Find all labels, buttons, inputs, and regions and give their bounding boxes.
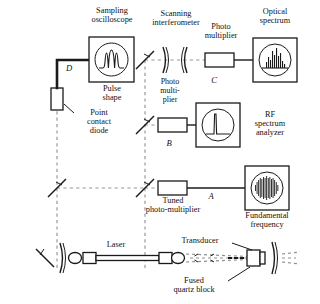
- fused-quartz-block-label: Fused quartz block: [158, 276, 230, 294]
- focused-beam: [228, 257, 244, 259]
- branch-label-d: D: [63, 64, 75, 73]
- branch-label-c: C: [208, 76, 220, 85]
- diagram-canvas: .solid{stroke:#1a1a1a;fill:none;} .thin{…: [0, 0, 320, 304]
- leader-line: [228, 267, 250, 281]
- rf-spectrum-analyzer-label: RF spectrum analyzer: [243, 110, 297, 138]
- photo-multiplier-b-label: Photo multi- plier: [148, 78, 192, 104]
- laser-label: Laser: [96, 240, 136, 249]
- curved-mirror-icon: [60, 243, 66, 273]
- output-beam: [282, 252, 300, 264]
- optical-spectrum-label: Optical spectrum: [249, 7, 301, 25]
- transducer-icon: [247, 250, 265, 266]
- photo-multiplier-c: [205, 53, 234, 67]
- fundamental-frequency-display: [245, 166, 289, 210]
- transducer-label: Transducer: [168, 236, 232, 245]
- leader-line: [232, 243, 252, 250]
- mirror-icon: [36, 249, 54, 267]
- point-contact-diode-icon: [51, 88, 63, 110]
- tuned-photo-multiplier: [158, 181, 187, 195]
- tuned-photo-multiplier-label: Tuned photo-multiplier: [136, 196, 210, 214]
- pulse-shape-label: Pulse shape: [82, 84, 142, 102]
- beamsplitter-icon: [136, 51, 154, 69]
- optical-spectrum-display: [253, 38, 297, 82]
- laser-tube-icon: [69, 253, 185, 264]
- point-contact-diode-label: Point contact diode: [72, 108, 126, 136]
- rf-spectrum-analyzer-display: [196, 103, 240, 147]
- fundamental-frequency-label: Fundamental frequency: [235, 211, 299, 229]
- optical-setup-diagram: .solid{stroke:#1a1a1a;fill:none;} .thin{…: [0, 0, 320, 304]
- photo-multiplier-c-label: Photo multiplier: [196, 22, 246, 40]
- branch-label-a: A: [205, 192, 217, 201]
- photo-multiplier-b: [158, 118, 187, 132]
- sampling-oscilloscope: [89, 37, 134, 82]
- curved-mirror-icon: [272, 242, 278, 274]
- branch-label-b: B: [163, 139, 175, 148]
